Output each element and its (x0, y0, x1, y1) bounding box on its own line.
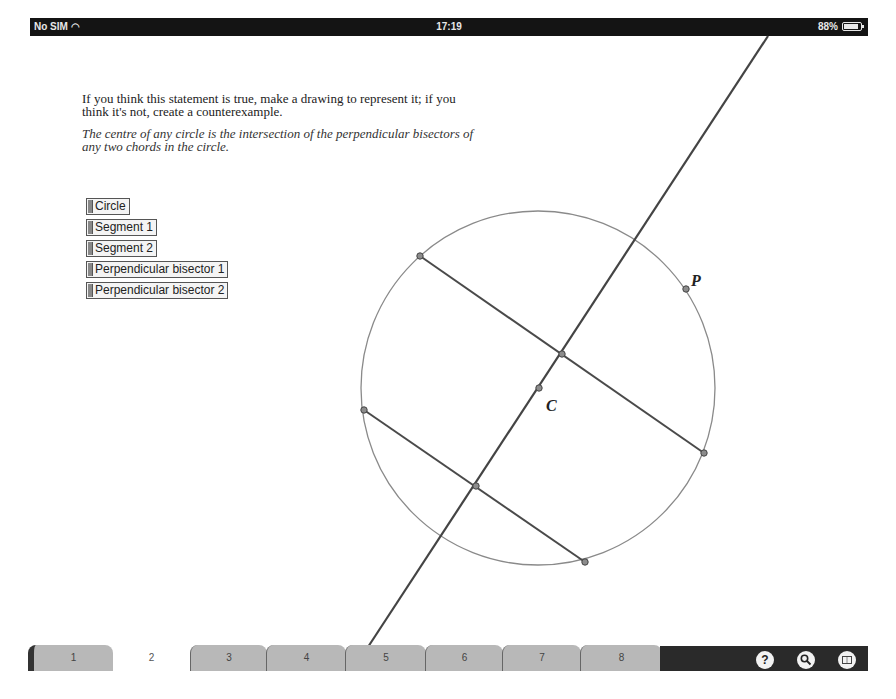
toolbar-area: ? (660, 646, 868, 671)
point[interactable] (473, 483, 479, 489)
help-button[interactable]: ? (756, 651, 774, 669)
tab-page-3[interactable]: 3 (190, 645, 267, 671)
point[interactable] (417, 253, 423, 259)
point[interactable] (559, 351, 565, 357)
book-icon (838, 651, 856, 669)
tab-page-2[interactable]: 2 (113, 645, 190, 671)
geometry-canvas[interactable]: P C (0, 0, 896, 699)
point-c[interactable] (536, 385, 542, 391)
search-icon (797, 651, 815, 669)
point[interactable] (701, 450, 707, 456)
perpendicular-bisector-line[interactable] (368, 36, 768, 647)
point-label-p: P (690, 272, 701, 289)
point-label-c: C (546, 397, 557, 414)
search-button[interactable] (797, 651, 815, 669)
book-button[interactable] (838, 651, 856, 669)
tab-page-6[interactable]: 6 (425, 645, 503, 671)
tab-page-8[interactable]: 8 (580, 645, 662, 671)
tab-page-7[interactable]: 7 (502, 645, 581, 671)
point[interactable] (582, 559, 588, 565)
page-tab-bar: 1 2 3 4 5 6 7 8 ? (28, 645, 868, 671)
point[interactable] (361, 407, 367, 413)
tab-page-4[interactable]: 4 (266, 645, 346, 671)
points-group (361, 253, 707, 565)
tab-page-5[interactable]: 5 (345, 645, 426, 671)
tab-page-1[interactable]: 1 (28, 645, 113, 671)
point-p[interactable] (683, 286, 689, 292)
